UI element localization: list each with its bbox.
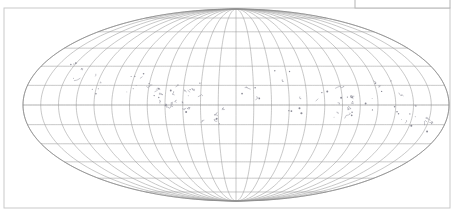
island-dot (352, 96, 353, 97)
legend-group[interactable] (355, 0, 450, 8)
island-dot (351, 114, 353, 116)
island-dot (158, 97, 159, 98)
island-dot (340, 97, 342, 99)
island-dot (143, 73, 145, 75)
island-dot (426, 131, 428, 133)
figure-background (0, 0, 462, 215)
legend-box[interactable] (355, 0, 450, 8)
island-dot (390, 81, 391, 82)
island-dot (134, 76, 135, 77)
island-dot (184, 108, 185, 109)
map-figure (0, 0, 462, 215)
island-dot (398, 113, 399, 114)
island-dot (289, 71, 290, 72)
island-dot (188, 95, 189, 96)
island-dot (300, 112, 302, 114)
island-dot (185, 111, 187, 113)
island-dot (241, 93, 243, 95)
island-dot (136, 85, 137, 86)
island-dot (73, 78, 74, 79)
island-dot (394, 106, 396, 108)
island-dot (131, 76, 132, 77)
island-dot (254, 87, 256, 89)
island-dot (189, 89, 190, 90)
island-dot (365, 103, 367, 105)
island-dot (372, 109, 373, 110)
island-dot (148, 83, 149, 84)
island-dot (347, 96, 348, 97)
island-dot (351, 112, 353, 114)
island-dot (334, 117, 335, 118)
island-dot (372, 98, 373, 99)
island-dot (347, 108, 349, 110)
island-dot (199, 83, 200, 84)
island-dot (347, 107, 348, 108)
island-dot (282, 81, 283, 82)
island-dot (258, 98, 260, 100)
island-dot (381, 91, 382, 92)
island-dot (165, 105, 166, 106)
island-dot (70, 64, 71, 65)
island-dot (219, 123, 220, 124)
island-dot (288, 110, 289, 111)
island-dot (274, 70, 275, 71)
island-dot (73, 63, 74, 64)
island-dot (298, 107, 300, 109)
island-dot (75, 62, 77, 64)
island-dot (396, 111, 398, 113)
island-dot (415, 116, 416, 117)
island-dot (95, 93, 97, 95)
island-dot (92, 89, 93, 90)
island-dot (326, 91, 328, 93)
island-dot (153, 95, 154, 96)
island-dot (401, 119, 402, 120)
island-dot (291, 110, 293, 112)
island-dot (409, 113, 410, 114)
island-dot (98, 88, 99, 89)
island-dot (282, 80, 283, 81)
island-dot (176, 102, 177, 103)
map-canvas[interactable] (0, 0, 462, 215)
island-dot (170, 90, 172, 92)
island-dot (410, 125, 412, 127)
island-dot (321, 92, 322, 93)
island-dot (126, 92, 127, 93)
